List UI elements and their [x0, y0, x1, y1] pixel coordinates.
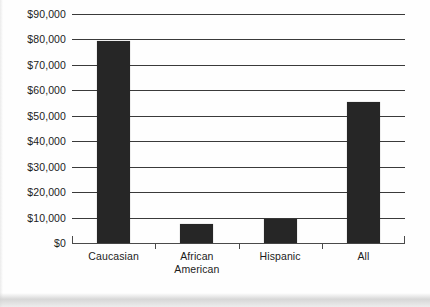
- y-axis-tick-label: $20,000: [0, 186, 66, 198]
- y-axis-tick-label: $60,000: [0, 84, 66, 96]
- y-axis-labels: $0$10,000$20,000$30,000$40,000$50,000$60…: [0, 0, 66, 307]
- axis-end-cap: [404, 236, 405, 243]
- bar: [180, 224, 213, 243]
- gridline: [72, 14, 405, 15]
- plot-area: [72, 14, 405, 243]
- x-axis-category-label: Hispanic: [239, 250, 322, 263]
- x-axis-tick: [155, 243, 156, 249]
- y-axis-tick-label: $30,000: [0, 161, 66, 173]
- y-axis-tick-label: $0: [0, 237, 66, 249]
- x-axis-category-label: All: [322, 250, 405, 263]
- axis-end-cap: [72, 236, 73, 243]
- x-axis-category-label: African American: [155, 250, 238, 276]
- y-axis-tick-label: $70,000: [0, 59, 66, 71]
- bar: [97, 41, 130, 243]
- y-axis-tick-label: $80,000: [0, 33, 66, 45]
- x-axis-category-label: Caucasian: [72, 250, 155, 263]
- scan-edge-artifact: [0, 0, 3, 307]
- y-axis-tick-label: $40,000: [0, 135, 66, 147]
- x-axis-labels: CaucasianAfrican AmericanHispanicAll: [72, 250, 405, 295]
- bar-chart-figure: $0$10,000$20,000$30,000$40,000$50,000$60…: [0, 0, 430, 307]
- scan-band-artifact: [0, 293, 430, 307]
- bar: [264, 219, 297, 243]
- y-axis-tick-label: $50,000: [0, 110, 66, 122]
- x-axis-tick: [322, 243, 323, 249]
- y-axis-tick-label: $10,000: [0, 212, 66, 224]
- x-axis-tick: [239, 243, 240, 249]
- bar: [347, 102, 380, 243]
- y-axis-tick-label: $90,000: [0, 8, 66, 20]
